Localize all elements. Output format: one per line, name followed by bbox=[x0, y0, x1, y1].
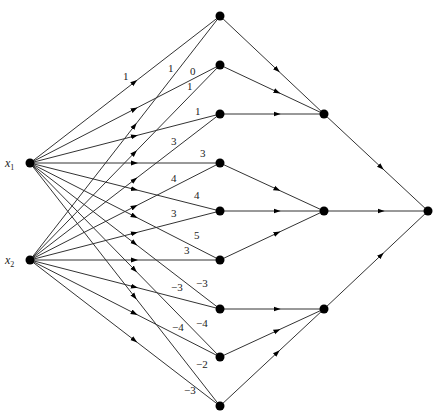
edge-x1-h9 bbox=[30, 163, 220, 406]
edge-h2-g1 bbox=[220, 65, 324, 114]
weight-label: 1 bbox=[123, 70, 129, 82]
input-node-x2 bbox=[26, 256, 35, 265]
edge-g3-out bbox=[324, 211, 428, 309]
input-label-x1: x1 bbox=[4, 156, 14, 172]
weight-label: −4 bbox=[196, 317, 208, 329]
hidden-node-h3 bbox=[216, 110, 225, 119]
weight-label: −3 bbox=[184, 384, 196, 396]
input-label-x2: x2 bbox=[4, 253, 14, 269]
weight-label: 4 bbox=[194, 189, 200, 201]
hidden-node-h4 bbox=[216, 159, 225, 168]
weight-label: 4 bbox=[171, 172, 177, 184]
weight-label: 3 bbox=[171, 207, 177, 219]
hidden-node-h1 bbox=[216, 12, 225, 21]
weight-label: −4 bbox=[172, 321, 184, 333]
edge-x1-h7 bbox=[30, 163, 220, 309]
weight-label: −2 bbox=[196, 358, 208, 370]
weight-label: 0 bbox=[190, 65, 196, 77]
weight-label: 1 bbox=[195, 105, 201, 117]
hidden-node-h6 bbox=[216, 256, 225, 265]
weight-label: 3 bbox=[184, 244, 190, 256]
diagram-canvas: 110113344353−3−3−4−4−2−3x1x2 bbox=[0, 0, 444, 419]
edge-h9-g3 bbox=[220, 309, 324, 406]
edge-h1-g1 bbox=[220, 16, 324, 114]
edge-x2-h8 bbox=[30, 260, 220, 357]
edge-g1-out bbox=[324, 114, 428, 211]
edge-x1-h5 bbox=[30, 163, 220, 211]
hidden-node-h2 bbox=[216, 61, 225, 70]
weight-label: 3 bbox=[171, 135, 177, 147]
hidden-node-h8 bbox=[216, 353, 225, 362]
hidden-node-g3 bbox=[320, 305, 329, 314]
edge-x1-h3 bbox=[30, 114, 220, 163]
output-node bbox=[424, 207, 433, 216]
hidden-node-g1 bbox=[320, 110, 329, 119]
weight-label: 5 bbox=[194, 229, 200, 241]
weight-label: 3 bbox=[200, 147, 206, 159]
input-node-x1 bbox=[26, 159, 35, 168]
weight-label: −3 bbox=[196, 277, 208, 289]
hidden-node-h5 bbox=[216, 207, 225, 216]
hidden-node-h7 bbox=[216, 305, 225, 314]
hidden-node-h9 bbox=[216, 402, 225, 411]
weight-label: 1 bbox=[187, 80, 193, 92]
network-diagram: 110113344353−3−3−4−4−2−3x1x2 bbox=[0, 0, 444, 419]
edge-h8-g3 bbox=[220, 309, 324, 357]
weight-label: −3 bbox=[171, 281, 183, 293]
hidden-node-g2 bbox=[320, 207, 329, 216]
edges-group bbox=[30, 16, 428, 406]
edge-h4-g2 bbox=[220, 163, 324, 211]
weight-labels-group: 110113344353−3−3−4−4−2−3x1x2 bbox=[4, 62, 208, 396]
edge-h6-g2 bbox=[220, 211, 324, 260]
weight-label: 1 bbox=[168, 62, 174, 74]
